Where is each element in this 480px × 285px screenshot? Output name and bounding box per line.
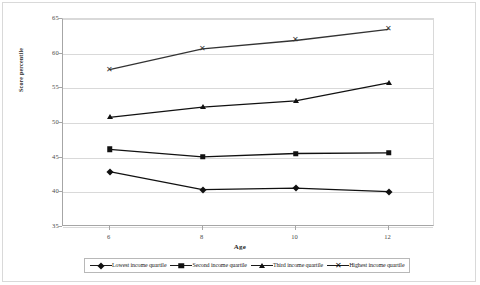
legend-marker-glyph [179,263,185,269]
y-tick-label: 40 [29,187,59,194]
legend-item-3[interactable]: ✕Highest income quartile [327,261,404,270]
plot-area: ✕✕✕✕ [62,18,434,226]
y-tick-label: 55 [29,83,59,90]
chart-legend: Lowest income quartileSecond income quar… [84,258,410,273]
x-tick-mark [295,226,296,230]
series-line [110,172,389,192]
series-lines [63,19,435,227]
legend-marker-cross-icon: ✕ [327,261,349,270]
legend-item-0[interactable]: Lowest income quartile [90,261,166,270]
legend-label: Highest income quartile [349,262,404,269]
data-point-triangle [386,80,392,85]
data-point-square [386,150,392,156]
data-point-cross: ✕ [385,25,393,33]
data-point-cross: ✕ [199,45,207,53]
data-point-cross: ✕ [106,66,114,74]
legend-label: Lowest income quartile [112,262,166,269]
x-axis-title: Age [0,243,480,251]
y-tick-label: 35 [29,222,59,229]
y-axis-title: Score percentile [18,12,24,92]
x-tick-mark [109,226,110,230]
legend-marker-square-icon [170,261,192,270]
data-point-triangle [107,114,113,119]
data-point-triangle [293,98,299,103]
data-point-square [293,151,299,157]
x-tick-label: 6 [94,233,124,241]
data-point-square [107,147,113,153]
data-point-square [200,154,206,160]
x-tick-label: 8 [187,233,217,241]
data-point-triangle [200,104,206,109]
gridline [63,227,433,228]
legend-marker-diamond-icon [90,261,112,270]
legend-marker-glyph: ✕ [334,262,342,270]
legend-marker-triangle-icon [251,261,273,270]
legend-item-1[interactable]: Second income quartile [170,261,246,270]
legend-marker-glyph [97,262,104,269]
series-line [110,149,389,157]
series-line [110,29,389,69]
data-point-cross: ✕ [292,36,300,44]
legend-label: Second income quartile [192,262,246,269]
x-tick-label: 12 [373,233,403,241]
y-tick-label: 45 [29,153,59,160]
legend-label: Third income quartile [273,262,323,269]
y-tick-label: 65 [29,14,59,21]
legend-item-2[interactable]: Third income quartile [251,261,323,270]
y-tick-mark [58,226,62,227]
x-tick-mark [202,226,203,230]
y-tick-label: 50 [29,118,59,125]
legend-marker-glyph [259,263,265,268]
series-line [110,83,389,118]
chart-container: Score percentile 35404550556065 ✕✕✕✕ 681… [0,0,480,285]
x-tick-mark [388,226,389,230]
y-tick-label: 60 [29,49,59,56]
x-tick-label: 10 [280,233,310,241]
